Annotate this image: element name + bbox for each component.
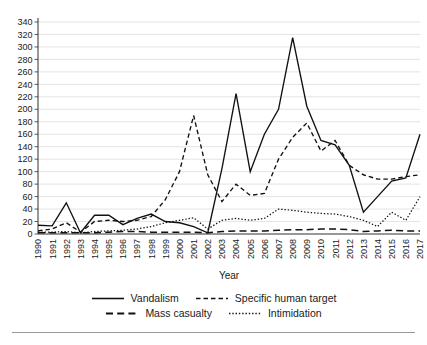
y-tick-labels: 0204060801001201401601802002202402602803…: [17, 17, 32, 239]
x-tick-label: 1999: [161, 239, 171, 259]
x-tick-label: 2003: [217, 239, 227, 259]
legend-item-vandalism: Vandalism: [91, 292, 179, 304]
legend-label-intimidation: Intimidation: [268, 307, 322, 319]
chart-figure: 0204060801001201401601802002202402602803…: [0, 0, 427, 345]
x-tick-label: 2001: [189, 239, 199, 259]
x-tick-label: 2012: [345, 239, 355, 259]
y-tick-label: 300: [17, 42, 32, 52]
y-tick-label: 20: [22, 217, 32, 227]
x-tick-label: 2000: [175, 239, 185, 259]
x-tick-label: 2011: [331, 239, 341, 258]
legend-row: Mass casualty Intimidation: [105, 307, 321, 319]
x-tick-label: 2010: [316, 239, 326, 259]
legend-swatch-dotted: [228, 309, 262, 318]
legend-label-specific-human-target: Specific human target: [235, 292, 337, 304]
x-tick-label: 2016: [401, 239, 411, 259]
x-tick-label: 2007: [274, 239, 284, 259]
y-tick-label: 220: [17, 92, 32, 102]
x-tick-label: 2006: [260, 239, 270, 259]
y-tick-label: 100: [17, 167, 32, 177]
legend-label-mass-casualty: Mass casualty: [145, 307, 212, 319]
footer-divider: [12, 332, 415, 333]
x-tick-label: 1991: [48, 239, 58, 259]
chart-legend: Vandalism Specific human target Mass cas…: [0, 292, 427, 319]
x-tick-label: 1995: [104, 239, 114, 259]
y-tick-label: 200: [17, 104, 32, 114]
y-tick-label: 140: [17, 142, 32, 152]
y-tick-label: 180: [17, 117, 32, 127]
x-tick-label: 1990: [33, 239, 43, 259]
data-series: [38, 38, 420, 233]
legend-label-vandalism: Vandalism: [131, 292, 179, 304]
x-tick-label: 2017: [415, 239, 425, 259]
y-tick-label: 120: [17, 154, 32, 164]
x-tick-label: 2013: [359, 239, 369, 259]
y-tick-label: 40: [22, 204, 32, 214]
x-tick-label: 2015: [387, 239, 397, 259]
legend-item-intimidation: Intimidation: [228, 307, 322, 319]
legend-row: Vandalism Specific human target: [91, 292, 337, 304]
y-tick-label: 240: [17, 80, 32, 90]
legend-swatch-long-dash: [105, 309, 139, 318]
y-tick-label: 0: [27, 229, 32, 239]
x-tick-label: 2005: [246, 239, 256, 259]
gridlines: [35, 22, 421, 234]
y-tick-label: 280: [17, 55, 32, 65]
x-tick-label: 1997: [132, 239, 142, 259]
x-tick-label: 2002: [203, 239, 213, 259]
x-tick-label: 1992: [62, 239, 72, 259]
y-tick-label: 340: [17, 17, 32, 27]
x-tick-label: 2014: [373, 239, 383, 259]
y-tick-label: 80: [22, 179, 32, 189]
x-tick-label: 1994: [90, 239, 100, 259]
legend-item-mass-casualty: Mass casualty: [105, 307, 212, 319]
x-tick-label: 1998: [147, 239, 157, 259]
series-line-vandalism: [38, 38, 420, 233]
x-tick-label: 2009: [302, 239, 312, 259]
legend-item-specific-human-target: Specific human target: [195, 292, 337, 304]
x-tick-labels: 1990199119921993199419951996199719981999…: [33, 239, 425, 259]
x-tick-label: 1996: [118, 239, 128, 259]
legend-swatch-solid: [91, 294, 125, 303]
y-tick-label: 320: [17, 30, 32, 40]
y-tick-label: 160: [17, 129, 32, 139]
x-tick-label: 2004: [231, 239, 241, 259]
x-tick-label: 2008: [288, 239, 298, 259]
x-axis-title: Year: [219, 270, 240, 281]
y-tick-label: 260: [17, 67, 32, 77]
y-tick-label: 60: [22, 192, 32, 202]
legend-swatch-short-dash: [195, 294, 229, 303]
x-tick-label: 1993: [76, 239, 86, 259]
